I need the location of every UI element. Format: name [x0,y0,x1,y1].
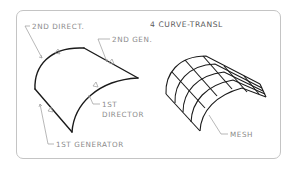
label-second-generator: 2ND GEN. [112,36,152,43]
label-mesh: MESH [230,131,253,138]
label-first-generator: 1ST GENERATOR [56,141,124,148]
label-first-director-line1: 1ST [102,101,117,108]
first-generator-curve [35,89,72,132]
leader-mesh [209,115,228,134]
label-second-director: 2ND DIRECT. [32,23,84,30]
label-first-director-line2: DIRECTOR [102,111,144,118]
left-surface-outline [35,48,138,132]
second-generator-curve [84,48,138,78]
mesh-surface [166,56,266,131]
diagram-title: 4 CURVE-TRANSL [150,21,223,29]
